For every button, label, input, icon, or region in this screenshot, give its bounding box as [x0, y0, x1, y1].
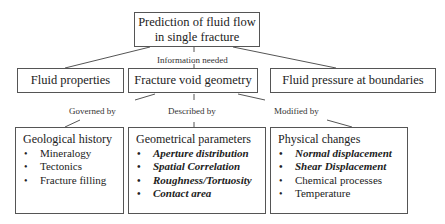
connector-root-left [65, 47, 150, 68]
list-item: Fracture filling [23, 174, 123, 187]
box-title: Geometrical parameters [136, 132, 265, 146]
list-item: Roughness/Tortuosity [136, 174, 265, 187]
node-label: Fracture void geometry [134, 73, 251, 88]
box-physical-changes: Physical changes Normal displacement She… [270, 127, 408, 214]
list-item: Tectonics [23, 160, 123, 173]
node-fracture-void-geometry: Fracture void geometry [128, 68, 258, 93]
node-fluid-pressure: Fluid pressure at boundaries [270, 68, 436, 93]
connector-middle-modified [238, 94, 265, 100]
box-geometrical-parameters: Geometrical parameters Aperture distribu… [128, 127, 266, 214]
list-item: Mineralogy [23, 147, 123, 160]
item-list: Normal displacement Shear Displacement C… [278, 147, 407, 200]
root-box: Prediction of fluid flow in single fract… [134, 12, 260, 47]
connector-middle-governed [135, 94, 155, 100]
node-label: Fluid properties [31, 73, 111, 88]
root-title-line2: in single fracture [138, 30, 256, 45]
node-label: Fluid pressure at boundaries [282, 73, 423, 88]
box-title: Geological history [23, 132, 123, 146]
label-described-by: Described by [168, 106, 216, 116]
box-geological-history: Geological history Mineralogy Tectonics … [15, 127, 124, 214]
item-list: Aperture distribution Spatial Correlatio… [136, 147, 265, 200]
root-title-line1: Prediction of fluid flow [138, 15, 256, 30]
box-title: Physical changes [278, 132, 407, 146]
list-item: Aperture distribution [136, 147, 265, 160]
list-item: Chemical processes [278, 174, 407, 187]
list-item: Shear Displacement [278, 160, 407, 173]
connector-root-right [233, 47, 336, 68]
list-item: Spatial Correlation [136, 160, 265, 173]
label-modified-by: Modified by [274, 106, 319, 116]
connector-governed-left [65, 120, 80, 127]
label-information-needed: Information needed [157, 55, 228, 65]
list-item: Normal displacement [278, 147, 407, 160]
list-item: Contact area [136, 187, 265, 200]
connector-modified-right [327, 120, 352, 127]
list-item: Temperature [278, 187, 407, 200]
node-fluid-properties: Fluid properties [17, 68, 124, 93]
label-governed-by: Governed by [69, 106, 116, 116]
item-list: Mineralogy Tectonics Fracture filling [23, 147, 123, 187]
